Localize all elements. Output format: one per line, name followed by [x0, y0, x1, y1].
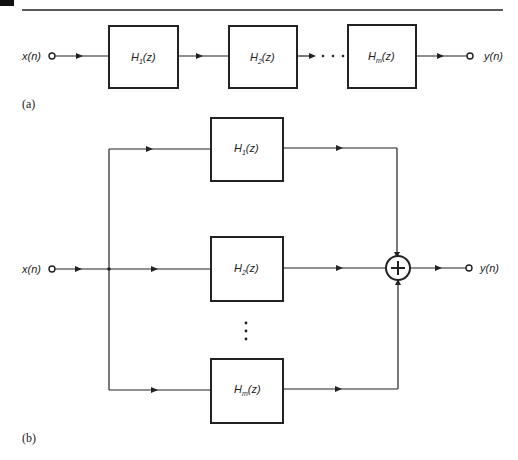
a-ellipsis-dot — [322, 55, 325, 58]
a-arrow-in — [76, 53, 83, 59]
a-block-h1-label: H1(z) — [131, 51, 156, 65]
a-arrow-1-2 — [196, 53, 203, 59]
b-ellipsis-dot — [245, 322, 248, 325]
a-arrow-out — [437, 53, 444, 59]
a-input-label: x(n) — [21, 50, 41, 62]
page-corner-mark — [0, 0, 14, 6]
b-output-terminal — [466, 265, 472, 271]
b-block-h2-label: H2(z) — [234, 262, 259, 276]
b-ellipsis-dot — [245, 330, 248, 333]
b-arrow-to-h1 — [146, 146, 153, 152]
a-caption: (a) — [22, 97, 35, 111]
block-diagram: x(n) H1(z) H2(z) Hm(z) y(n) (a) x(n) — [0, 0, 518, 460]
a-ellipsis-dot — [332, 55, 335, 58]
b-ellipsis-dot — [245, 338, 248, 341]
b-arrow-from-h1 — [336, 145, 343, 151]
b-arrow-out — [435, 265, 442, 271]
a-ellipsis-dot — [342, 55, 345, 58]
b-output-label: y(n) — [479, 262, 499, 274]
b-arrow-to-hm — [151, 387, 158, 393]
b-arrow-in — [75, 266, 82, 272]
b-arrow-from-h2 — [336, 265, 343, 271]
a-block-hm-label: Hm(z) — [368, 50, 395, 64]
b-caption: (b) — [22, 431, 36, 445]
a-input-terminal — [49, 53, 55, 59]
b-block-h1-label: H1(z) — [234, 142, 259, 156]
b-input-terminal — [49, 266, 55, 272]
figure-b-parallel: x(n) H1(z) H2(z) Hm(z) — [21, 118, 499, 445]
b-input-label: x(n) — [21, 263, 41, 275]
b-block-hm-label: Hm(z) — [234, 383, 261, 397]
a-arrow-2-dots — [309, 53, 316, 59]
b-arrow-from-hm — [335, 386, 342, 392]
figure-a-cascade: x(n) H1(z) H2(z) Hm(z) y(n) (a) — [21, 25, 503, 111]
summing-junction — [386, 256, 410, 280]
a-output-terminal — [467, 53, 473, 59]
a-output-label: y(n) — [483, 50, 503, 62]
b-arrow-to-h2 — [151, 266, 158, 272]
a-block-h2-label: H2(z) — [250, 51, 275, 65]
